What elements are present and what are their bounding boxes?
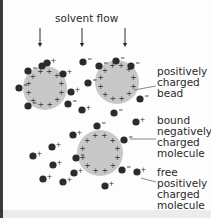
plus-charge-icon: + <box>25 79 31 88</box>
positive-bead: ++++++++++++ <box>77 130 123 176</box>
bound-molecule-label: bound negatively charged molecule <box>157 115 211 159</box>
bound-negative-molecule <box>118 166 130 173</box>
solvent-flow-arrows <box>38 28 127 47</box>
free-positive-molecule: + <box>78 104 91 114</box>
free-positive-molecule: + <box>59 68 72 78</box>
plus-charge-icon: + <box>38 100 44 109</box>
plus-charge-icon: + <box>77 129 83 137</box>
plus-charge-icon: + <box>84 161 90 170</box>
plus-charge-icon: + <box>102 66 108 75</box>
plus-charge-icon: + <box>102 166 108 175</box>
solvent-flow-label: solvent flow <box>55 12 118 24</box>
bead-label: positively charged bead <box>157 66 207 99</box>
bound-negative-molecule <box>79 58 91 65</box>
plus-charge-icon: + <box>141 166 147 174</box>
free-positive-molecule: + <box>101 180 114 190</box>
plus-charge-icon: + <box>84 136 90 145</box>
plus-charge-icon: + <box>92 131 98 140</box>
bound-negative-molecule <box>84 79 96 86</box>
plus-charge-icon: + <box>56 141 62 149</box>
plus-charge-icon: + <box>109 180 115 188</box>
bound-negative-molecule <box>110 109 122 116</box>
plus-charge-icon: + <box>51 57 57 65</box>
free-positive-molecule: + <box>132 116 145 126</box>
plus-charge-icon: + <box>57 159 63 167</box>
plus-charge-icon: + <box>78 167 84 175</box>
down-arrow-icon <box>123 28 127 47</box>
plus-charge-icon: + <box>79 144 85 153</box>
free-positive-molecule: + <box>39 173 52 183</box>
down-arrow-icon <box>80 28 84 47</box>
bound-negative-molecule <box>136 95 148 102</box>
plus-charge-icon: + <box>118 94 124 103</box>
free-positive-molecule: + <box>49 159 62 169</box>
plus-charge-icon: + <box>25 88 31 97</box>
plus-charge-icon: + <box>140 116 146 124</box>
plus-charge-icon: + <box>54 95 60 104</box>
plus-charge-icon: + <box>110 161 116 170</box>
bound-negative-molecule <box>64 100 76 107</box>
plus-charge-icon: + <box>46 67 52 76</box>
plus-charge-icon: + <box>92 166 98 175</box>
down-arrow-icon <box>38 28 42 47</box>
plus-charge-icon: + <box>114 144 120 153</box>
free-positive-molecule: + <box>48 141 61 151</box>
free-molecule-label: free positively charged molecule <box>157 167 207 211</box>
plus-charge-icon: + <box>126 89 132 98</box>
bound-negative-molecule <box>127 62 139 69</box>
plus-charge-icon: + <box>130 73 136 82</box>
free-positive-molecule: + <box>67 86 80 96</box>
plus-charge-icon: + <box>97 73 103 82</box>
plus-charge-icon: + <box>75 86 81 94</box>
plus-charge-icon: + <box>58 79 64 88</box>
beads: ++++++++++++++++++++++++++++++++++++ <box>23 60 139 176</box>
plus-charge-icon: + <box>67 68 73 76</box>
plus-charge-icon: + <box>110 94 116 103</box>
free-positive-molecule: + <box>59 176 72 186</box>
plus-charge-icon: + <box>37 150 43 158</box>
plus-charge-icon: + <box>86 104 92 112</box>
free-leader-line <box>141 178 156 182</box>
free-positive-molecule: + <box>29 150 42 160</box>
plus-charge-icon: + <box>101 131 107 140</box>
plus-charge-icon: + <box>67 176 73 184</box>
free-positive-molecule: + <box>69 129 82 139</box>
plus-charge-icon: + <box>46 100 52 109</box>
plus-charge-icon: + <box>97 82 103 91</box>
free-positive-molecule: + <box>133 166 146 176</box>
free-positive-molecule: + <box>43 57 56 67</box>
plus-charge-icon: + <box>47 173 53 181</box>
bound-negative-molecule <box>120 136 132 143</box>
bound-negative-molecule <box>93 122 105 129</box>
